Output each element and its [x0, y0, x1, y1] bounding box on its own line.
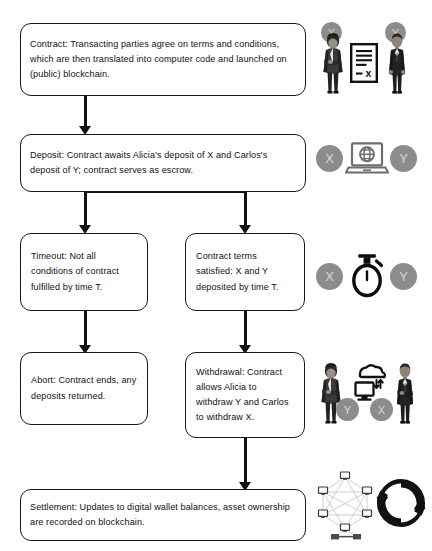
businessman-icon-withdrawal — [392, 362, 418, 424]
flowchart-diagram: Contract: Transacting parties agree on t… — [0, 0, 432, 551]
node-terms-satisfied-text: Contract terms satisfied: X and Y deposi… — [186, 249, 304, 294]
badge-y-deposit-label: Y — [399, 151, 408, 166]
node-withdrawal-text: Withdrawal: Contract allows Alicia to wi… — [186, 365, 304, 425]
icon-group-contract: X Y — [314, 20, 424, 98]
node-terms-satisfied[interactable]: Contract terms satisfied: X and Y deposi… — [185, 233, 305, 311]
badge-y-timeout-label: Y — [399, 269, 408, 284]
connector-terms-to-withdrawal — [244, 310, 247, 348]
node-settlement[interactable]: Settlement: Updates to digital wallet ba… — [20, 489, 306, 541]
svg-text:x: x — [366, 67, 372, 79]
node-contract-text: Contract: Transacting parties agree on t… — [21, 37, 305, 82]
node-settlement-text: Settlement: Updates to digital wallet ba… — [21, 500, 305, 530]
icon-group-settlement — [314, 466, 428, 546]
contract-document-icon: x — [350, 43, 378, 83]
icon-group-timeout: X Y — [314, 252, 424, 302]
badge-y-deposit: Y — [390, 145, 417, 172]
cloud-exchange-icon — [347, 362, 387, 404]
stopwatch-icon — [347, 252, 387, 300]
node-timeout[interactable]: Timeout: Not all conditions of contract … — [20, 233, 148, 311]
badge-x-deposit: X — [316, 145, 343, 172]
node-contract[interactable]: Contract: Transacting parties agree on t… — [20, 23, 306, 96]
icon-group-deposit: X Y — [314, 140, 424, 184]
icon-group-withdrawal: Y X — [312, 360, 428, 430]
badge-x-timeout: X — [316, 263, 343, 290]
node-abort[interactable]: Abort: Contract ends, any deposits retur… — [20, 352, 148, 425]
badge-x-deposit-label: X — [325, 151, 334, 166]
connector-deposit-to-terms — [244, 190, 247, 227]
laptop-globe-icon — [345, 142, 389, 176]
connector-contract-to-deposit — [84, 95, 87, 128]
badge-x-withdrawal-label: X — [378, 404, 385, 416]
businesswoman-icon — [318, 32, 348, 94]
sync-arrows-icon — [376, 478, 426, 528]
node-deposit-text: Deposit: Contract awaits Alicia's deposi… — [21, 148, 305, 178]
node-deposit[interactable]: Deposit: Contract awaits Alicia's deposi… — [20, 134, 306, 192]
node-withdrawal[interactable]: Withdrawal: Contract allows Alicia to wi… — [185, 352, 305, 438]
node-abort-text: Abort: Contract ends, any deposits retur… — [21, 373, 147, 403]
network-mesh-icon — [314, 468, 376, 542]
node-timeout-text: Timeout: Not all conditions of contract … — [21, 249, 147, 294]
badge-x-timeout-label: X — [325, 269, 334, 284]
badge-y-timeout: Y — [390, 263, 417, 290]
businessman-icon — [384, 32, 410, 94]
badge-y-withdrawal-label: Y — [344, 404, 351, 416]
connector-deposit-to-timeout — [84, 190, 87, 227]
connector-withdrawal-to-settlement — [244, 437, 247, 485]
connector-timeout-to-abort — [84, 310, 87, 348]
